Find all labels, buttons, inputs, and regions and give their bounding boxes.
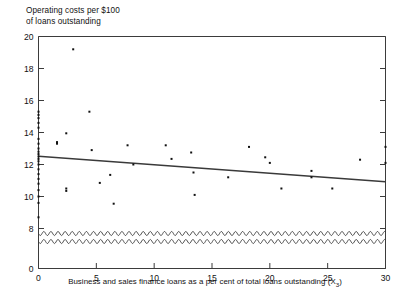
data-point [99,182,101,184]
data-point [65,188,67,190]
data-point [269,162,271,164]
data-point [38,148,40,150]
data-point [248,146,250,148]
data-point [56,143,58,145]
data-point [38,160,40,162]
data-point [109,174,111,176]
svg-text:16: 16 [24,96,34,106]
data-point [38,196,40,198]
data-point [190,152,192,154]
data-point [38,183,40,185]
y-axis-break [39,232,386,244]
data-point [385,162,387,164]
data-point [280,188,282,190]
plot-canvas: 08101214161820051015202530 [0,0,410,296]
data-point [38,189,40,191]
data-point [264,156,266,158]
data-point [165,144,167,146]
svg-text:18: 18 [24,64,34,74]
x-axis-title: Business and sales finance loans as a pe… [0,277,410,288]
data-point [127,144,129,146]
data-point [65,132,67,134]
data-point [38,114,40,116]
data-point [38,178,40,180]
data-point [38,153,40,155]
data-point [385,146,387,148]
data-point [38,156,40,158]
regression-line [39,156,386,182]
svg-text:12: 12 [24,160,34,170]
data-point [38,168,40,170]
data-point [38,173,40,175]
x-axis-title-suffix: ) [339,277,342,286]
data-point [38,202,40,204]
data-point [38,127,40,129]
x-axis-title-text: Business and sales finance loans as a pe… [68,277,336,286]
data-point [91,149,93,151]
data-point [194,194,196,196]
data-points-group [38,48,387,218]
data-point [113,203,115,205]
data-point [359,159,361,161]
data-point [38,151,40,153]
data-point [38,138,40,140]
data-point [331,188,333,190]
data-point [38,117,40,119]
tick-labels-group: 08101214161820051015202530 [24,32,391,283]
data-point [132,164,134,166]
data-point [65,190,67,192]
data-point [227,176,229,178]
data-point [38,164,40,166]
data-point [310,176,312,178]
svg-text:20: 20 [24,32,34,42]
data-point [171,158,173,160]
data-point [38,216,40,218]
scatter-plot-figure: Operating costs per $100 of loans outsta… [0,0,410,296]
data-point [38,143,40,145]
data-point [38,158,40,160]
data-point [38,122,40,124]
data-point [310,170,312,172]
data-point [192,172,194,174]
data-point [88,111,90,113]
svg-text:10: 10 [24,192,34,202]
svg-text:8: 8 [29,224,34,234]
svg-text:0: 0 [29,264,34,274]
data-point [38,111,40,113]
svg-text:14: 14 [24,128,34,138]
data-point [72,48,74,50]
